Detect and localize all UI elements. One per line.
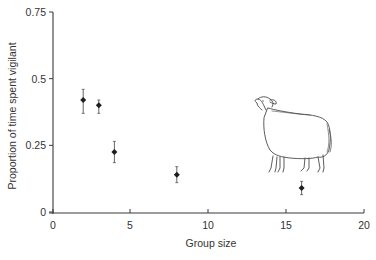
x-tick-label: 0 bbox=[50, 219, 56, 231]
x-tick-label: 5 bbox=[127, 219, 133, 231]
data-point bbox=[174, 167, 180, 183]
diamond-marker bbox=[299, 185, 305, 191]
diamond-marker bbox=[96, 102, 102, 108]
diamond-marker bbox=[80, 97, 86, 103]
y-tick-label: 0 bbox=[40, 206, 46, 218]
axes: 00.250.50.7505101520Group sizeProportion… bbox=[6, 6, 370, 249]
x-axis-label: Group size bbox=[186, 237, 237, 249]
y-tick-label: 0.5 bbox=[31, 73, 46, 85]
data-point bbox=[111, 141, 117, 162]
x-tick-label: 10 bbox=[202, 219, 214, 231]
diamond-marker bbox=[174, 172, 180, 178]
data-points bbox=[80, 89, 304, 194]
data-point bbox=[80, 89, 86, 113]
y-axis-label: Proportion of time spent vigilant bbox=[6, 42, 18, 189]
scatter-chart: 00.250.50.7505101520Group sizeProportion… bbox=[0, 0, 376, 260]
x-tick-label: 15 bbox=[280, 219, 292, 231]
y-tick-label: 0.25 bbox=[26, 139, 47, 151]
data-point bbox=[96, 100, 102, 113]
sheep-illustration bbox=[255, 97, 331, 172]
x-tick-label: 20 bbox=[358, 219, 370, 231]
diamond-marker bbox=[111, 149, 117, 155]
y-tick-label: 0.75 bbox=[26, 6, 47, 18]
data-point bbox=[299, 181, 305, 194]
